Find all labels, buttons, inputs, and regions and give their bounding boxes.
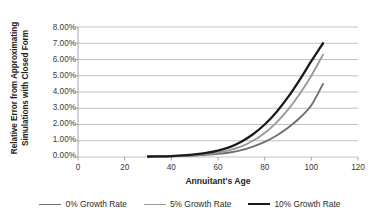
series-line	[148, 84, 323, 157]
y-tick-label: 6.00%	[40, 55, 76, 64]
legend-item-10-growth: 10% Growth Rate	[248, 199, 340, 209]
x-tick-label: 100	[304, 163, 318, 172]
series-line	[148, 55, 323, 157]
y-axis-title-line-1: Relative Error from Approximating	[10, 21, 21, 153]
y-tick-label: 8.00%	[40, 23, 76, 32]
legend-line-swatch	[248, 203, 270, 205]
x-tick-label: 120	[351, 163, 365, 172]
legend-label: 5% Growth Rate	[170, 199, 231, 209]
y-tick-label: 1.00%	[40, 135, 76, 144]
y-tick-label: 5.00%	[40, 71, 76, 80]
y-tick-label: 0.00%	[40, 151, 76, 160]
series-line	[148, 43, 323, 156]
y-tick-label: 4.00%	[40, 87, 76, 96]
legend-line-swatch	[144, 204, 166, 205]
x-axis-title: Annuitant's Age	[78, 176, 358, 186]
y-tick-label: 2.00%	[40, 119, 76, 128]
y-tick-label: 3.00%	[40, 103, 76, 112]
chart-legend: 0% Growth Rate 5% Growth Rate 10% Growth…	[0, 199, 380, 209]
legend-label: 10% Growth Rate	[274, 199, 340, 209]
x-tick-label: 0	[76, 163, 81, 172]
x-tick-label: 80	[260, 163, 269, 172]
x-tick-label: 40	[167, 163, 176, 172]
legend-line-swatch	[39, 204, 61, 205]
y-tick-label: 7.00%	[40, 39, 76, 48]
legend-item-0-growth: 0% Growth Rate	[39, 199, 126, 209]
y-axis-title: Relative Error from Approximating Simula…	[0, 0, 40, 175]
y-axis-tick-labels: 8.00% 7.00% 6.00% 5.00% 4.00% 3.00% 2.00…	[38, 0, 76, 175]
legend-item-5-growth: 5% Growth Rate	[144, 199, 231, 209]
x-tick-label: 60	[213, 163, 222, 172]
y-axis-title-line-2: Simulations with Closed Form	[20, 21, 31, 153]
x-tick-label: 20	[120, 163, 129, 172]
legend-label: 0% Growth Rate	[65, 199, 126, 209]
chart-container: Relative Error from Approximating Simula…	[0, 0, 380, 224]
